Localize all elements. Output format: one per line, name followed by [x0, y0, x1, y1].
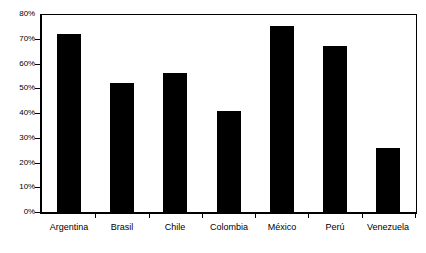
x-tick-label: Venezuela [367, 222, 409, 232]
bar [270, 26, 294, 212]
x-tick-label: México [268, 222, 297, 232]
bar [217, 111, 241, 212]
x-axis-labels: ArgentinaBrasilChileColombiaMéxicoPerúVe… [0, 222, 426, 240]
x-tick-label: Argentina [50, 222, 89, 232]
x-tick-label: Perú [325, 222, 344, 232]
bar [110, 83, 134, 212]
x-tick-mark [149, 213, 150, 218]
y-axis-line [40, 14, 42, 213]
x-tick-label: Brasil [111, 222, 134, 232]
bar-chart: 0%10%20%30%40%50%60%70%80% ArgentinaBras… [0, 0, 426, 253]
x-tick-mark [202, 213, 203, 218]
x-tick-mark [362, 213, 363, 218]
x-axis-line [40, 212, 416, 214]
x-tick-mark [255, 213, 256, 218]
x-tick-label: Chile [165, 222, 186, 232]
bar [57, 34, 81, 212]
bar [376, 148, 400, 212]
x-tick-mark [415, 213, 416, 218]
x-tick-mark [95, 213, 96, 218]
bar [163, 73, 187, 212]
x-tick-label: Colombia [210, 222, 248, 232]
x-tick-mark [308, 213, 309, 218]
bar [323, 46, 347, 212]
